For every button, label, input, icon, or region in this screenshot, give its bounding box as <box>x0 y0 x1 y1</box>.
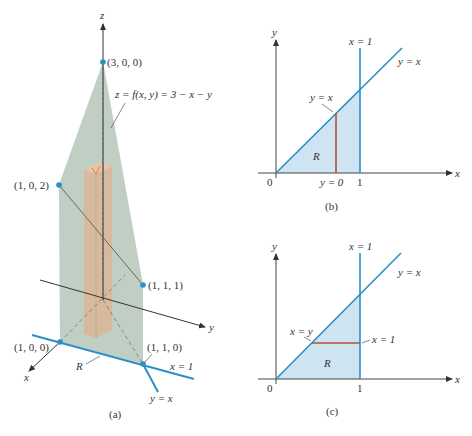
region-r-label: R <box>312 150 320 162</box>
label-1-0-0: (1, 0, 0) <box>14 341 49 354</box>
x-axis-label: x <box>454 373 460 385</box>
region-r-label: R <box>323 357 331 369</box>
caption-b: (b) <box>325 200 338 213</box>
figure-canvas: z y x (3, 0, 0) (1, 0, 2) (1, 1, 1) (1, … <box>0 0 472 436</box>
point-1-1-1 <box>140 282 146 288</box>
y-axis-label: y <box>271 26 277 38</box>
label-x-equals-1: x = 1 <box>348 35 372 47</box>
label-cut-left: x = y <box>289 325 313 337</box>
y-axis-label: y <box>271 240 277 252</box>
panel-b: y x 0 1 x = 1 y = x y = x y = 0 R (b) <box>258 26 460 213</box>
point-1-0-2 <box>56 182 62 188</box>
label-cut-right: x = 1 <box>371 333 395 345</box>
label-1-1-0: (1, 1, 0) <box>147 341 182 354</box>
label-y-equals-x: y = x <box>149 392 173 404</box>
panel-a: z y x (3, 0, 0) (1, 0, 2) (1, 1, 1) (1, … <box>14 9 214 421</box>
label-1-1-1: (1, 1, 1) <box>148 279 183 292</box>
origin-label: 0 <box>267 382 273 394</box>
label-x-equals-1: x = 1 <box>169 360 193 372</box>
z-axis-label: z <box>99 9 105 21</box>
label-3-0-0: (3, 0, 0) <box>107 56 142 69</box>
label-y-equals-x: y = x <box>397 55 421 67</box>
x-axis-label: x <box>23 371 29 383</box>
label-1-0-2: (1, 0, 2) <box>14 179 49 192</box>
y-axis-label: y <box>208 321 214 333</box>
label-y-equals-x: y = x <box>397 266 421 278</box>
point-1-1-0 <box>140 361 146 367</box>
origin-label: 0 <box>267 176 273 188</box>
column-box <box>84 162 112 338</box>
point-3-0-0 <box>100 59 106 65</box>
x-axis-label: x <box>454 167 460 179</box>
caption-c: (c) <box>326 405 339 418</box>
label-cut-bottom: y = 0 <box>319 176 344 188</box>
label-cut-top: y = x <box>309 91 333 103</box>
tick-1-label: 1 <box>357 176 363 188</box>
tick-1-label: 1 <box>357 382 363 394</box>
panel-c: y x 0 1 x = 1 y = x x = y x = 1 R (c) <box>258 240 460 418</box>
caption-a: (a) <box>109 408 122 421</box>
label-x-equals-1: x = 1 <box>348 240 372 252</box>
surface-equation-label: z = f(x, y) = 3 − x − y <box>114 88 212 101</box>
region-r-label: R <box>75 360 83 372</box>
point-1-0-0 <box>57 339 63 345</box>
